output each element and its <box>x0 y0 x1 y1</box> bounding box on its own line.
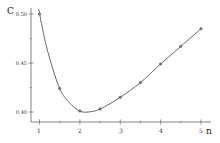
y-tick-label-040: 0.40 <box>5 109 27 115</box>
axes <box>29 8 212 125</box>
data-point-marker <box>180 45 183 48</box>
data-point-marker <box>79 110 82 113</box>
data-point-marker <box>38 13 41 16</box>
x-tick-label-3: 3 <box>116 127 126 134</box>
y-tick-label-050: 0.50 <box>5 11 27 17</box>
x-tick-label-2: 2 <box>75 127 85 134</box>
chart-plot-area <box>0 0 220 143</box>
y-tick-label-045: 0.45 <box>5 60 27 66</box>
data-point-marker <box>99 108 102 111</box>
data-point-marker <box>159 63 162 66</box>
x-tick-label-4: 4 <box>156 127 166 134</box>
x-tick-label-1: 1 <box>34 127 44 134</box>
x-axis-title: n <box>206 126 212 136</box>
data-point-marker <box>200 27 203 30</box>
data-point-marker <box>58 87 61 90</box>
data-point-marker <box>119 96 122 99</box>
data-point-marker <box>139 81 142 84</box>
data-markers <box>38 13 202 113</box>
x-tick-label-5: 5 <box>196 127 206 134</box>
